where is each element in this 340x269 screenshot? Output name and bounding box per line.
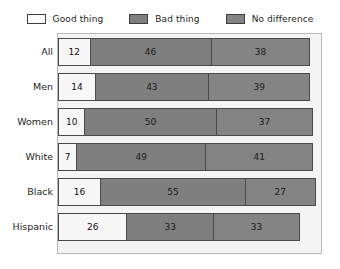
bar-segment-no-difference: 37 xyxy=(216,108,313,136)
bar-segment-bad-thing: 50 xyxy=(84,108,216,136)
bar-value-label: 46 xyxy=(145,47,156,57)
bar-row: Women105037 xyxy=(58,108,321,136)
bar-segment-no-difference: 39 xyxy=(208,73,311,101)
bar-row: Hispanic263333 xyxy=(58,213,321,241)
bar-value-label: 10 xyxy=(66,117,77,127)
bar-segment-good-thing: 7 xyxy=(58,143,76,171)
category-label-all: All xyxy=(0,38,58,66)
plot-area: All124638Men144339Women105037White74941B… xyxy=(57,33,322,254)
bar-segment-no-difference: 33 xyxy=(213,213,300,241)
legend-item-good-thing: Good thing xyxy=(27,14,104,24)
bar-segment-good-thing: 26 xyxy=(58,213,126,241)
bar-row: Black165527 xyxy=(58,178,321,206)
stacked-bar-chart: Good thing Bad thing No difference All12… xyxy=(0,0,340,269)
chart-legend: Good thing Bad thing No difference xyxy=(0,9,340,29)
bar-segment-good-thing: 12 xyxy=(58,38,90,66)
bar-value-label: 55 xyxy=(167,187,178,197)
bar-value-label: 27 xyxy=(274,187,285,197)
category-label-men: Men xyxy=(0,73,58,101)
legend-label-bad-thing: Bad thing xyxy=(155,14,199,24)
bar-value-label: 14 xyxy=(71,82,82,92)
bar-segment-good-thing: 14 xyxy=(58,73,95,101)
legend-label-no-difference: No difference xyxy=(252,14,314,24)
bar-segment-bad-thing: 55 xyxy=(100,178,245,206)
legend-item-no-difference: No difference xyxy=(226,14,314,24)
legend-swatch-good-icon xyxy=(27,14,46,24)
legend-label-good-thing: Good thing xyxy=(53,14,104,24)
bar-row: White74941 xyxy=(58,143,321,171)
bar-segment-good-thing: 10 xyxy=(58,108,84,136)
bar-value-label: 39 xyxy=(253,82,264,92)
bar-segment-bad-thing: 46 xyxy=(90,38,211,66)
bar-value-label: 41 xyxy=(253,152,264,162)
bar-value-label: 33 xyxy=(251,222,262,232)
bar-value-label: 43 xyxy=(146,82,157,92)
bar-segment-bad-thing: 33 xyxy=(126,213,213,241)
bar-value-label: 50 xyxy=(145,117,156,127)
category-label-white: White xyxy=(0,143,58,171)
bar-value-label: 7 xyxy=(65,152,71,162)
bars-container: All124638Men144339Women105037White74941B… xyxy=(58,34,321,253)
category-label-women: Women xyxy=(0,108,58,136)
bar-segment-bad-thing: 49 xyxy=(76,143,205,171)
bar-value-label: 26 xyxy=(87,222,98,232)
bar-value-label: 12 xyxy=(69,47,80,57)
bar-value-label: 33 xyxy=(165,222,176,232)
bar-row: All124638 xyxy=(58,38,321,66)
legend-swatch-no-difference-icon xyxy=(226,14,245,24)
bar-value-label: 49 xyxy=(136,152,147,162)
bar-value-label: 16 xyxy=(74,187,85,197)
legend-item-bad-thing: Bad thing xyxy=(129,14,199,24)
bar-segment-good-thing: 16 xyxy=(58,178,100,206)
category-label-black: Black xyxy=(0,178,58,206)
bar-row: Men144339 xyxy=(58,73,321,101)
bar-value-label: 37 xyxy=(259,117,270,127)
bar-segment-bad-thing: 43 xyxy=(95,73,208,101)
bar-value-label: 38 xyxy=(255,47,266,57)
bar-segment-no-difference: 41 xyxy=(205,143,313,171)
category-label-hispanic: Hispanic xyxy=(0,213,58,241)
bar-segment-no-difference: 38 xyxy=(211,38,311,66)
legend-swatch-bad-icon xyxy=(129,14,148,24)
bar-segment-no-difference: 27 xyxy=(245,178,316,206)
